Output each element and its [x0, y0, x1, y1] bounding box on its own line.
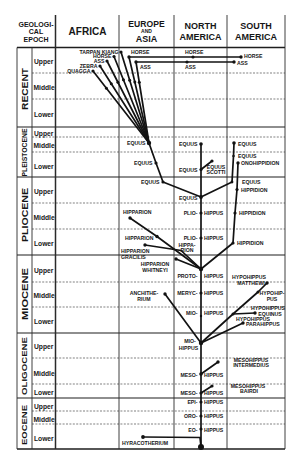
taxon-label: GRACILIS: [121, 254, 146, 260]
region-label: AFRICA: [69, 26, 107, 37]
taxon-dot: [199, 414, 202, 417]
taxon-dot: [236, 161, 239, 164]
taxon-dot: [199, 142, 203, 146]
epoch-name: MIOCENE: [20, 268, 30, 320]
taxon-label: MESO-: [180, 390, 197, 396]
taxon-dot: [155, 235, 158, 238]
taxon-hipparion-gracilis: HIPPARIONGRACILIS: [121, 243, 150, 260]
taxon-miohippus-mm: MIO-HIPPUS: [186, 310, 224, 317]
taxon-horse-sa: HORSE: [239, 53, 263, 59]
lineage-waypoint-dot: [110, 82, 113, 85]
taxon-label: WHITNEYI: [142, 267, 168, 273]
lineage-line: [100, 66, 149, 143]
root-node-dot: [198, 444, 204, 450]
taxon-label: PROTO-: [177, 273, 197, 279]
taxon-label: HIPPUS: [204, 273, 224, 279]
taxon-root: [198, 444, 204, 450]
substage-label: Upper: [34, 58, 54, 66]
taxon-hipparion-pm: HIPPARION: [123, 209, 152, 220]
taxon-label: HIPPARION: [125, 235, 154, 241]
taxon-dot: [232, 155, 234, 157]
lineage-waypoint-dot: [116, 81, 119, 84]
epoch-oligocene: OLIGOCENE Upper Middle Lower: [20, 337, 55, 396]
taxon-equus-eu-pu: EQUUS: [141, 179, 165, 185]
epoch-recent: RECENT Upper Middle Lower: [20, 58, 55, 118]
taxon-label: MIO-: [186, 310, 198, 316]
taxon-label: HIPPUS: [204, 413, 224, 419]
taxon-label: RION: [181, 247, 194, 253]
taxon-label: RIUM: [137, 296, 150, 302]
header-epoch-column: GEOLOGI- CAL EPOCH: [19, 21, 55, 43]
taxon-dot: [199, 236, 202, 239]
taxon-label: HIPPUS: [204, 310, 224, 316]
horse-evolution-diagram: GEOLOGI- CAL EPOCH AFRICA EUROPE AND ASI…: [0, 0, 299, 464]
taxon-hippidion-pm: HIPPIDION: [233, 210, 265, 216]
epoch-name: PLIOCENE: [20, 188, 30, 242]
taxon-label: SCOTTI: [206, 169, 226, 175]
taxon-hippidion-pl: HIPPIDION: [231, 240, 263, 246]
taxon-anchitherium: ANCHITHE-RIUM: [130, 290, 167, 302]
taxon-dot: [199, 195, 203, 199]
substage-label: Upper: [34, 188, 54, 196]
taxon-dot: [105, 59, 108, 62]
lineage-line: [235, 190, 237, 214]
epoch-pliocene: PLIOCENE Upper Middle Lower: [20, 188, 55, 247]
taxon-label: HIPPIDION: [237, 240, 264, 246]
header: GEOLOGI- CAL EPOCH AFRICA EUROPE AND ASI…: [19, 19, 278, 44]
taxon-dot: [210, 384, 213, 387]
taxon-label: EQUUS: [134, 160, 153, 166]
substage-label: Lower: [34, 389, 54, 396]
taxon-dot: [143, 243, 146, 246]
substage-label: Upper: [34, 343, 54, 351]
lineage-line: [201, 243, 233, 269]
header-region-africa: AFRICA: [69, 26, 107, 37]
taxon-dot: [191, 55, 194, 58]
taxon-label: HIPPIDION: [239, 210, 266, 216]
taxon-label: EQUUS: [179, 167, 198, 173]
taxon-label: MERYC-: [177, 290, 198, 296]
taxon-hipparion-whitneyi: HIPPARIONWHITNEYI: [141, 257, 178, 273]
taxon-epihippus: EPI-HIPPUS: [187, 399, 223, 405]
substage-label: Middle: [34, 214, 55, 221]
taxon-pliohippus-pl: PLIO-HIPPUS: [184, 235, 224, 241]
taxon-dot: [231, 181, 234, 184]
taxon-label: HIPPUS: [204, 210, 224, 216]
taxon-label: HIPPUS: [204, 372, 224, 378]
header-epoch-line: CAL: [29, 28, 44, 35]
header-region-north-america: NORTH AMERICA: [180, 21, 222, 42]
substage-label: Middle: [34, 416, 55, 423]
header-region-south-america: SOUTH AMERICA: [235, 21, 277, 42]
epoch-miocene: MIOCENE Upper Middle Lower: [20, 267, 55, 325]
taxon-label: HIPPUS: [179, 345, 199, 351]
taxon-equus-scotti: EQUUSSCOTTI: [206, 159, 226, 175]
lineage-waypoint-dot: [133, 80, 136, 83]
taxon-label: PLIO-: [184, 210, 198, 216]
taxon-dot: [161, 180, 164, 183]
taxon-label: EQUUS: [179, 141, 198, 147]
region-label: SOUTH: [240, 21, 272, 31]
taxon-dot: [210, 159, 213, 162]
header-region-europe-asia: EUROPE AND ASIA: [128, 19, 165, 44]
taxon-label: HIPPIDION: [241, 187, 268, 193]
taxon-label: ASS: [185, 64, 196, 70]
taxon-label: MIO-: [184, 338, 196, 344]
taxon-dot: [199, 400, 202, 403]
taxon-equus-na-pu: EQUUS: [179, 195, 203, 201]
taxon-label: HYRACOTHERIUM: [122, 440, 168, 446]
taxon-label: HORSE: [244, 53, 263, 59]
taxon-dot: [253, 311, 256, 314]
taxon-dot: [235, 188, 238, 191]
region-label: NORTH: [185, 21, 217, 31]
taxon-label: HIPPUS: [204, 290, 224, 296]
taxon-dot: [98, 64, 101, 67]
substage-label: Upper: [34, 403, 54, 411]
taxon-hypohippus-matthewi: HYPOHIPPUSMATTHEWI: [232, 274, 269, 287]
lineage-line: [233, 213, 235, 243]
substage-label: Middle: [34, 142, 55, 149]
lineage-waypoint-dot: [138, 81, 141, 84]
taxon-label: HIPPUS: [204, 427, 224, 433]
substage-label: Lower: [34, 163, 54, 170]
taxon-dot: [112, 55, 115, 58]
taxon-label: ONOHIPPIDION: [241, 160, 280, 166]
taxon-dot: [134, 60, 137, 63]
